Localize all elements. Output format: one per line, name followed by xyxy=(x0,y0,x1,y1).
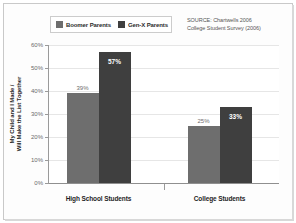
bar-boomer-college[interactable]: 25% xyxy=(188,126,220,184)
y-axis-tick-label: 0% xyxy=(34,180,43,186)
x-axis-separator-tick xyxy=(164,184,165,190)
figure-frame-shadow-right xyxy=(292,5,294,221)
chart-figure: Boomer Parents Gen-X Parents SOURCE: Cha… xyxy=(0,0,296,223)
y-axis-title-line-2: Will Make the List Together xyxy=(16,77,23,151)
y-axis-tick xyxy=(45,68,49,69)
y-axis-tick xyxy=(45,160,49,161)
legend-item-genx-parents[interactable]: Gen-X Parents xyxy=(118,21,168,28)
y-axis-tick-label: 40% xyxy=(31,88,43,94)
bar-value-label: 39% xyxy=(76,85,88,91)
legend-swatch-icon-boomer xyxy=(56,21,63,28)
y-axis-title: My Child and I Made / Will Make the List… xyxy=(9,45,23,183)
legend-swatch-icon-genx xyxy=(118,21,125,28)
bar-genx-high-school[interactable]: 57% xyxy=(99,52,131,183)
bar-value-label: 33% xyxy=(229,113,242,120)
x-axis-category-label: High School Students xyxy=(66,195,132,202)
source-note-line-1: SOURCE: Chartwells 2006 xyxy=(187,16,291,24)
y-axis-tick-label: 50% xyxy=(31,65,43,71)
y-axis-tick xyxy=(45,91,49,92)
legend-label-genx: Gen-X Parents xyxy=(128,22,168,28)
source-note-line-2: College Student Survey (2006) xyxy=(187,24,291,32)
y-axis-tick xyxy=(45,137,49,138)
gridline xyxy=(49,68,279,69)
y-axis-tick-label: 20% xyxy=(31,134,43,140)
y-axis-tick-label: 60% xyxy=(31,42,43,48)
y-axis-tick-label: 30% xyxy=(31,111,43,117)
bar-boomer-high-school[interactable]: 39% xyxy=(67,93,99,183)
x-axis-category-label: College Students xyxy=(194,195,246,202)
figure-frame-shadow-bottom xyxy=(5,219,294,221)
y-axis-tick xyxy=(45,114,49,115)
bar-value-label: 57% xyxy=(108,58,121,65)
legend-item-boomer-parents[interactable]: Boomer Parents xyxy=(56,21,111,28)
bar-value-label: 25% xyxy=(197,118,209,124)
plot-area: 0%10%20%30%40%50%60% 39%57%25%33% High S… xyxy=(48,45,279,183)
y-axis-tick xyxy=(45,45,49,46)
legend-label-boomer: Boomer Parents xyxy=(66,22,111,28)
source-note: SOURCE: Chartwells 2006 College Student … xyxy=(187,16,291,32)
gridline xyxy=(49,45,279,46)
y-axis-tick-label: 10% xyxy=(31,157,43,163)
bar-genx-college[interactable]: 33% xyxy=(220,107,252,183)
chart-legend: Boomer Parents Gen-X Parents xyxy=(50,16,172,33)
y-axis-title-line-1: My Child and I Made / xyxy=(9,77,16,151)
